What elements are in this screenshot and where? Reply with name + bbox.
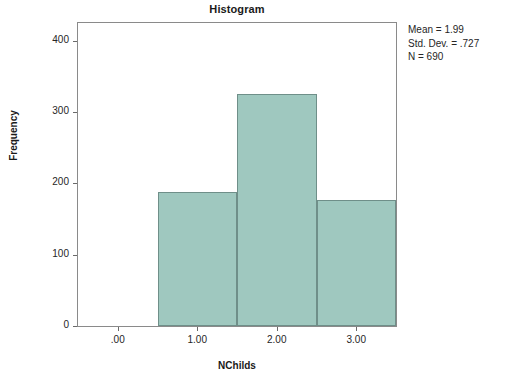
chart-title: Histogram — [77, 3, 397, 15]
x-tick-mark — [277, 327, 278, 331]
bars-layer — [78, 23, 396, 326]
y-axis-tick: 200 — [0, 183, 77, 184]
y-tick-mark — [73, 41, 77, 42]
stat-mean: Mean = 1.99 — [408, 23, 479, 37]
x-tick-label: 1.00 — [177, 334, 217, 345]
x-tick-label: 3.00 — [336, 334, 376, 345]
y-axis-label: Frequency — [8, 86, 19, 186]
histogram-chart: Histogram Frequency 0100200300400 .001.0… — [0, 0, 523, 389]
y-tick-mark — [73, 112, 77, 113]
histogram-bar — [158, 192, 238, 326]
y-axis-tick: 100 — [0, 255, 77, 256]
y-axis-tick: 0 — [0, 326, 77, 327]
x-tick-label: .00 — [98, 334, 138, 345]
y-tick-label: 100 — [52, 248, 69, 259]
y-tick-label: 300 — [52, 105, 69, 116]
y-tick-mark — [73, 326, 77, 327]
y-tick-label: 400 — [52, 34, 69, 45]
histogram-bar — [237, 94, 317, 326]
stat-std-dev: Std. Dev. = .727 — [408, 37, 479, 51]
statistics-annotation: Mean = 1.99 Std. Dev. = .727 N = 690 — [408, 23, 479, 64]
y-tick-mark — [73, 183, 77, 184]
x-tick-mark — [197, 327, 198, 331]
x-axis-label: NChilds — [77, 360, 397, 371]
y-axis-tick: 400 — [0, 41, 77, 42]
histogram-bar — [317, 200, 397, 326]
y-tick-label: 0 — [63, 319, 69, 330]
y-tick-mark — [73, 255, 77, 256]
y-axis-tick: 300 — [0, 112, 77, 113]
stat-n: N = 690 — [408, 50, 479, 64]
y-tick-label: 200 — [52, 176, 69, 187]
x-tick-mark — [118, 327, 119, 331]
x-tick-mark — [356, 327, 357, 331]
x-tick-label: 2.00 — [257, 334, 297, 345]
